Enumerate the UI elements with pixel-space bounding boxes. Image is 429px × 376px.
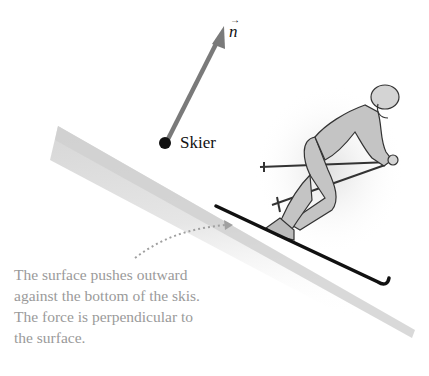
- normal-vector-arrow: [166, 26, 225, 143]
- caption-line: against the bottom of the skis.: [14, 285, 274, 306]
- vector-accent-icon: →: [230, 14, 240, 25]
- normal-force-diagram: → n Skier The surface pushes outward aga…: [0, 0, 429, 376]
- caption: The surface pushes outward against the b…: [14, 264, 274, 348]
- caption-line: the surface.: [14, 327, 274, 348]
- normal-vector-label: → n: [229, 22, 238, 42]
- skier-point: [159, 137, 171, 149]
- skier-label: Skier: [180, 133, 216, 153]
- caption-line: The surface pushes outward: [14, 264, 274, 285]
- caption-line: The force is perpendicular to: [14, 306, 274, 327]
